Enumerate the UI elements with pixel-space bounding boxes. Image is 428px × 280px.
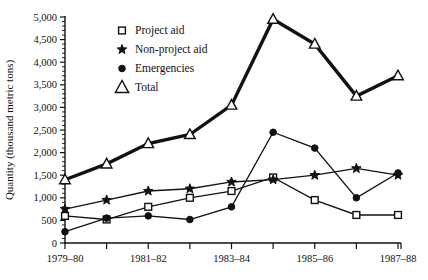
marker-square — [395, 212, 402, 219]
legend-label: Non-project aid — [135, 43, 208, 56]
y-tick-label: 3,000 — [33, 102, 57, 113]
y-tick-label: 4,500 — [33, 34, 57, 45]
marker-triangle — [393, 70, 404, 80]
marker-circle — [395, 170, 402, 177]
marker-star — [102, 195, 112, 204]
marker-circle — [103, 215, 110, 222]
marker-star — [143, 186, 153, 195]
marker-square — [186, 194, 193, 201]
x-tick-label: 1985–86 — [296, 253, 333, 264]
marker-star — [185, 184, 195, 193]
marker-circle — [62, 228, 69, 235]
x-tick-label: 1983–84 — [213, 253, 251, 264]
marker-circle — [187, 216, 194, 223]
marker-square — [145, 203, 152, 210]
legend-item-project-aid: Project aid — [119, 24, 185, 37]
x-tick-label: 1979–80 — [47, 253, 84, 264]
legend-label: Emergencies — [135, 62, 195, 75]
marker-square — [119, 27, 126, 34]
legend: Project aidNon-project aidEmergenciesTot… — [115, 24, 207, 93]
marker-circle — [228, 204, 235, 211]
marker-square — [228, 188, 235, 195]
y-axis-title-text: Quantity (thousand metric tons) — [3, 60, 16, 201]
y-tick-label: 500 — [41, 215, 57, 226]
marker-circle — [311, 145, 318, 152]
marker-triangle — [115, 81, 128, 93]
marker-circle — [353, 195, 360, 202]
legend-label: Project aid — [135, 24, 185, 37]
marker-triangle — [268, 14, 279, 24]
marker-star — [227, 177, 237, 186]
legend-item-emergencies: Emergencies — [119, 62, 195, 75]
y-tick-label: 5,000 — [33, 12, 57, 23]
y-tick-label: 2,000 — [33, 147, 57, 158]
y-tick-label: 1,500 — [33, 170, 57, 181]
y-axis-title: Quantity (thousand metric tons) — [3, 60, 16, 201]
y-tick-label: 1,000 — [33, 192, 57, 203]
x-tick-label: 1987–88 — [380, 253, 417, 264]
marker-star — [352, 163, 362, 172]
food-aid-line-chart: 05001,0001,5002,0002,5003,0003,5004,0004… — [0, 0, 428, 280]
marker-star — [117, 45, 127, 54]
series-total — [60, 14, 404, 184]
marker-circle — [270, 129, 277, 136]
x-tick-label: 1981–82 — [130, 253, 167, 264]
y-tick-label: 0 — [52, 238, 57, 249]
marker-square — [311, 197, 318, 204]
y-tick-label: 2,500 — [33, 125, 57, 136]
marker-circle — [145, 213, 152, 220]
marker-circle — [119, 65, 126, 72]
marker-star — [310, 170, 320, 179]
legend-item-total: Total — [115, 81, 158, 94]
marker-square — [353, 212, 360, 219]
legend-item-non-project-aid: Non-project aid — [117, 43, 207, 56]
legend-label: Total — [135, 81, 158, 93]
marker-square — [62, 212, 69, 219]
y-tick-label: 4,000 — [33, 57, 57, 68]
chart-container: 05001,0001,5002,0002,5003,0003,5004,0004… — [0, 0, 428, 280]
x-axis: 1979–801981–821983–841985–861987–88 — [47, 243, 417, 264]
y-axis: 05001,0001,5002,0002,5003,0003,5004,0004… — [33, 12, 65, 249]
y-tick-label: 3,500 — [33, 79, 57, 90]
